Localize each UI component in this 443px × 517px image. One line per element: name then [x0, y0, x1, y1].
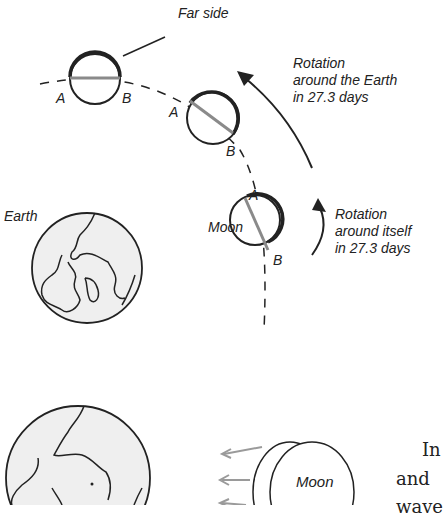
orbit-rotation-caption: Rotation around the Earth in 27.3 days	[293, 55, 397, 106]
self-rotation-arrow-icon	[312, 198, 326, 255]
self-rotation-caption: Rotation around itself in 27.3 days	[335, 206, 411, 257]
point-a-label-3: A	[249, 187, 258, 204]
point-a-label-1: A	[56, 90, 65, 107]
point-b-label-1: B	[122, 90, 131, 107]
earth-top-icon	[32, 213, 142, 323]
moon-mid-position-icon	[187, 92, 239, 144]
point-b-label-2: B	[226, 143, 235, 160]
earth-bottom-icon	[6, 406, 150, 505]
body-text-line-2: and	[396, 466, 430, 492]
point-b-label-3: B	[273, 252, 282, 269]
moon-label: Moon	[208, 219, 243, 236]
bottom-moon-label: Moon	[296, 473, 334, 490]
body-text-line-3: wave	[396, 494, 443, 517]
earth-label: Earth	[4, 208, 37, 225]
point-a-label-2: A	[169, 104, 178, 121]
moon-far-position-icon	[70, 37, 165, 104]
body-text-line-1: In	[422, 437, 441, 463]
far-side-label: Far side	[178, 5, 229, 22]
